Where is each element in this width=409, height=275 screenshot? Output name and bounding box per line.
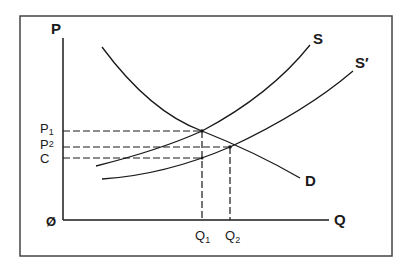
equilibrium-2-point <box>228 145 232 149</box>
q1-label: Q1 <box>195 228 210 245</box>
p1-label: P1 <box>40 121 54 137</box>
x-axis-label: Q <box>334 211 346 228</box>
y-axis-label: P <box>51 20 61 37</box>
origin-label: Ø <box>46 214 56 229</box>
demand-label: D <box>305 172 316 189</box>
guide-lines <box>63 131 230 220</box>
q2-label: Q2 <box>225 228 240 245</box>
p2-label: P2 <box>40 137 54 152</box>
c-label: C <box>40 151 49 166</box>
supply-label: S <box>313 30 323 47</box>
supply-curve <box>96 45 310 166</box>
supply-demand-diagram: P Q Ø S S′ D P1 P2 C Q1 Q2 <box>0 0 409 275</box>
cost-point <box>201 157 204 160</box>
supply-shifted-curve <box>102 71 353 179</box>
supply-shifted-label: S′ <box>355 54 369 71</box>
equilibrium-1-point <box>200 129 204 133</box>
